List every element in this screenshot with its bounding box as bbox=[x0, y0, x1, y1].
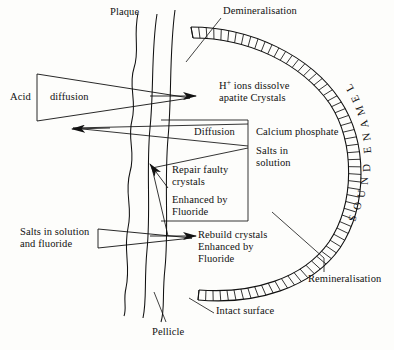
enamel-hatch-mark bbox=[191, 27, 193, 38]
enamel-hatch-mark bbox=[332, 102, 342, 107]
enamel-hatch-mark bbox=[337, 228, 348, 233]
enamel-hatch-mark bbox=[228, 31, 229, 42]
enamel-hatch-mark bbox=[314, 79, 322, 86]
apatite-crystals-label: apatite Crystals bbox=[219, 92, 286, 104]
rebuild-crystals-label-line2: Enhanced by bbox=[198, 241, 254, 253]
enamel-hatch-mark bbox=[319, 84, 328, 90]
sound-enamel-letter: U bbox=[355, 189, 368, 198]
enamel-hatch-mark bbox=[330, 240, 341, 247]
enamel-hatch-mark bbox=[309, 73, 317, 80]
sound-enamel-letter: E bbox=[361, 146, 374, 154]
enamel-hatch-mark bbox=[234, 290, 236, 300]
enamel-hatch-mark bbox=[328, 96, 337, 101]
repair-crystals-label-line1: Repair faulty bbox=[172, 164, 228, 176]
enamel-hatch-mark bbox=[345, 137, 357, 139]
enamel-hatch-mark bbox=[343, 130, 354, 133]
demineralisation-leader bbox=[186, 18, 221, 62]
enamel-hatch-mark bbox=[280, 51, 285, 60]
enamel-hatch-mark bbox=[261, 42, 265, 52]
enamel-hatch-mark bbox=[248, 288, 251, 298]
enamel-hatch-mark bbox=[262, 285, 266, 295]
enamel-hatch-mark bbox=[248, 36, 251, 46]
h-ions-text-pre: H bbox=[219, 80, 227, 91]
diffusion-wedge-label: diffusion bbox=[50, 91, 89, 103]
rebuild-crystals-label-line3: Fluoride bbox=[198, 253, 234, 265]
sound-enamel-letter: N bbox=[358, 177, 370, 185]
intact-surface-label: Intact surface bbox=[216, 305, 274, 317]
plaque-label: Plaque bbox=[110, 6, 139, 18]
enamel-hatch-mark bbox=[326, 246, 336, 253]
salts-fluoride-label-line1: Salts in solution bbox=[20, 226, 89, 238]
pellicle-label: Pellicle bbox=[152, 326, 184, 338]
enamel-hatch-mark bbox=[268, 45, 272, 54]
enamel-hatch-mark bbox=[311, 261, 320, 269]
enamel-hatch-mark bbox=[341, 122, 352, 125]
enamel-hatch-mark bbox=[292, 59, 299, 67]
enamel-hatch-mark bbox=[220, 291, 221, 301]
h-ions-text-post: ions dissolve bbox=[231, 80, 290, 91]
enamel-hatch-mark bbox=[349, 174, 361, 175]
enamel-hatch-mark bbox=[241, 289, 244, 299]
salts-in-label-line2: solution bbox=[256, 157, 291, 169]
enamel-hatch-mark bbox=[346, 144, 358, 146]
calcium-phosphate-label: Calcium phosphate bbox=[256, 126, 338, 138]
remineralisation-label: Remineralisation bbox=[308, 273, 381, 285]
enamel-hatch-mark bbox=[347, 152, 359, 153]
enamel-hatch-mark bbox=[317, 256, 326, 264]
repair-crystals-arrow bbox=[150, 164, 168, 188]
enamel-hatch-mark bbox=[288, 276, 295, 285]
pellicle-inner-curve bbox=[143, 14, 157, 318]
enamel-hatch-mark bbox=[335, 109, 345, 113]
enamel-hatch-mark bbox=[241, 34, 243, 44]
enamel-hatch-mark bbox=[281, 279, 287, 289]
salts-fluoride-wedge bbox=[98, 229, 192, 248]
demineralisation-label: Demineralisation bbox=[223, 5, 297, 17]
acid-label: Acid bbox=[10, 91, 31, 103]
enamel-hatch-mark bbox=[268, 283, 273, 293]
salts-fluoride-label-line2: and fluoride bbox=[20, 238, 72, 250]
enamel-hatch-mark bbox=[274, 48, 279, 57]
enamel-hatch-mark bbox=[255, 287, 259, 297]
enamel-hatch-mark bbox=[227, 290, 228, 300]
enamel-hatch-mark bbox=[338, 115, 349, 119]
enamel-hatch-mark bbox=[286, 55, 292, 63]
enamel-hatch-mark bbox=[235, 32, 237, 42]
enamel-hatch-mark bbox=[275, 281, 281, 291]
enamel-hatch-mark bbox=[255, 39, 258, 49]
enamel-hatch-mark bbox=[340, 222, 352, 227]
salts-in-label-line1: Salts in bbox=[256, 145, 288, 157]
enamel-hatch-mark bbox=[303, 68, 310, 75]
rebuild-crystals-label-line1: Rebuild crystals bbox=[198, 229, 268, 241]
enamel-hatch-mark bbox=[199, 27, 200, 38]
sound-enamel-letter: D bbox=[360, 164, 372, 172]
plaque-wavy-line bbox=[124, 13, 138, 316]
enamel-hatch-mark bbox=[298, 64, 305, 72]
enhanced-fluoride-label-line1: Enhanced by bbox=[172, 194, 228, 206]
enamel-hatch-mark bbox=[334, 234, 345, 240]
repair-crystals-label-line2: crystals bbox=[172, 176, 205, 188]
pellicle-leader bbox=[154, 292, 166, 322]
enamel-hatch-mark bbox=[294, 273, 301, 282]
enamel-hatch-mark bbox=[323, 90, 332, 96]
caries-enamel-diagram: Plaque Demineralisation Acid diffusion H… bbox=[0, 0, 394, 350]
enamel-hatch-mark bbox=[198, 290, 199, 300]
h-ions-label: H+ ions dissolve bbox=[219, 80, 290, 92]
enamel-hatch-mark bbox=[300, 269, 308, 278]
remineralisation-leader bbox=[272, 212, 324, 272]
enhanced-fluoride-label-line2: Fluoride bbox=[172, 206, 208, 218]
diffusion-box-label: Diffusion bbox=[194, 126, 235, 138]
